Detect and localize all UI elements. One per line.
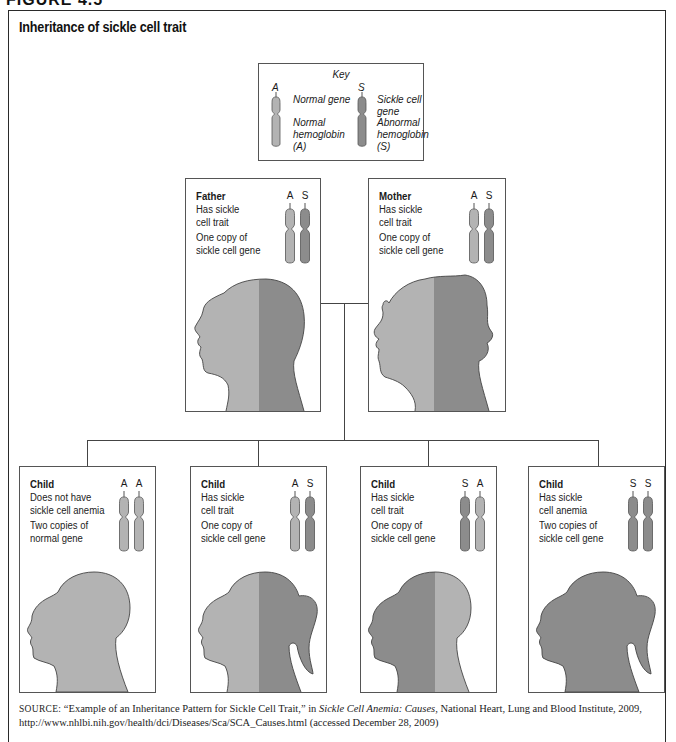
person-name: Child bbox=[539, 478, 563, 490]
source-prefix: SOURCE: bbox=[19, 704, 61, 714]
children-connector-horizontal bbox=[87, 440, 599, 441]
child-girl-silhouette-icon bbox=[529, 562, 665, 692]
key-sickle-hemoglobin-label: Abnormal hemoglobin (S) bbox=[377, 117, 429, 153]
allele-label: A bbox=[133, 478, 145, 489]
allele-label: A bbox=[468, 190, 480, 201]
person-status: Has sickle cell trait bbox=[371, 492, 414, 517]
mother-card: Mother Has sickle cell trait One copy of… bbox=[368, 178, 506, 412]
person-name: Child bbox=[371, 478, 395, 490]
normal-chromosome-icon bbox=[271, 92, 281, 148]
key-normal-gene-label: Normal gene bbox=[293, 94, 350, 106]
person-name: Father bbox=[196, 190, 226, 202]
person-name: Child bbox=[30, 478, 54, 490]
person-gene-copies: Two copies of normal gene bbox=[30, 520, 88, 545]
person-gene-copies: One copy of sickle cell gene bbox=[201, 520, 265, 545]
chromosome-pair-icon bbox=[459, 491, 487, 553]
key-box: Key A Normal gene Normal hemoglobin (A) … bbox=[258, 63, 424, 161]
child-card-3: Child Has sickle cell trait One copy of … bbox=[360, 466, 497, 693]
child-girl-silhouette-icon bbox=[191, 562, 327, 692]
allele-label: A bbox=[118, 478, 130, 489]
person-status: Has sickle cell trait bbox=[201, 492, 244, 517]
child-boy-silhouette-icon bbox=[361, 562, 497, 692]
child-card-1: Child Does not have sickle cell anemia T… bbox=[19, 466, 156, 693]
allele-label: S bbox=[304, 478, 316, 489]
key-normal-hemoglobin-label: Normal hemoglobin (A) bbox=[293, 117, 345, 153]
mother-head-silhouette-icon bbox=[369, 261, 506, 411]
allele-label: S bbox=[627, 478, 639, 489]
child-card-2: Child Has sickle cell trait One copy of … bbox=[190, 466, 327, 693]
person-status: Does not have sickle cell anemia bbox=[30, 492, 104, 517]
child-3-drop-line bbox=[428, 440, 429, 466]
person-gene-copies: One copy of sickle cell gene bbox=[379, 232, 443, 257]
allele-label: A bbox=[474, 478, 486, 489]
child-1-drop-line bbox=[87, 440, 88, 466]
child-4-drop-line bbox=[598, 440, 599, 466]
source-citation: SOURCE: “Example of an Inheritance Patte… bbox=[19, 702, 659, 730]
figure-label: FIGURE 4.5 bbox=[6, 0, 103, 9]
chromosome-pair-icon bbox=[118, 491, 146, 553]
allele-label: S bbox=[459, 478, 471, 489]
chromosome-pair-icon bbox=[468, 203, 496, 265]
parents-connector-vertical bbox=[344, 303, 345, 440]
allele-label: A bbox=[284, 190, 296, 201]
person-name: Child bbox=[201, 478, 225, 490]
allele-label: S bbox=[642, 478, 654, 489]
chromosome-pair-icon bbox=[284, 203, 312, 265]
key-sickle-gene-label: Sickle cell gene bbox=[377, 94, 423, 118]
person-gene-copies: Two copies of sickle cell gene bbox=[539, 520, 603, 545]
chromosome-pair-icon bbox=[627, 491, 655, 553]
child-2-drop-line bbox=[258, 440, 259, 466]
key-title: Key bbox=[259, 69, 423, 80]
person-status: Has sickle cell anemia bbox=[539, 492, 587, 517]
person-status: Has sickle cell trait bbox=[379, 204, 422, 229]
sickle-chromosome-icon bbox=[357, 92, 367, 148]
allele-label: S bbox=[299, 190, 311, 201]
source-quote: “Example of an Inheritance Pattern for S… bbox=[64, 703, 319, 714]
figure-title: Inheritance of sickle cell trait bbox=[19, 19, 186, 35]
father-card: Father Has sickle cell trait One copy of… bbox=[185, 178, 321, 412]
person-gene-copies: One copy of sickle cell gene bbox=[196, 232, 260, 257]
source-publication: Sickle Cell Anemia: Causes bbox=[319, 703, 435, 714]
child-boy-silhouette-icon bbox=[20, 562, 156, 692]
chromosome-pair-icon bbox=[289, 491, 317, 553]
person-gene-copies: One copy of sickle cell gene bbox=[371, 520, 435, 545]
person-status: Has sickle cell trait bbox=[196, 204, 239, 229]
father-head-silhouette-icon bbox=[186, 261, 321, 411]
allele-label: S bbox=[483, 190, 495, 201]
child-card-4: Child Has sickle cell anemia Two copies … bbox=[528, 466, 665, 693]
allele-label: A bbox=[289, 478, 301, 489]
person-name: Mother bbox=[379, 190, 411, 202]
